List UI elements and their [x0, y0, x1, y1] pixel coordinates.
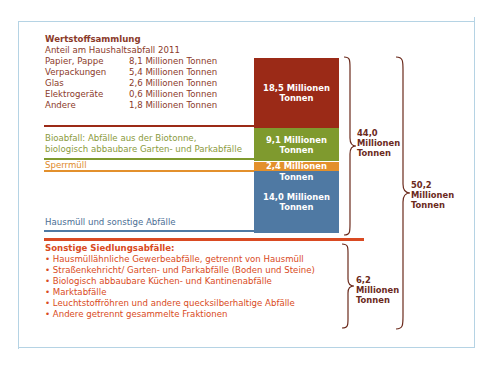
total-other-unit2: Tonnen — [356, 295, 390, 305]
segment-unit: Tonnen — [280, 93, 314, 103]
wertstoff-item-value: 2,6 Millionen Tonnen — [129, 78, 217, 89]
bar-segment-wertstoff: 18,5 Millionen Tonnen — [254, 58, 339, 128]
segment-value: 14,0 Millionen — [263, 192, 330, 202]
bar-segment-sperrmuell: 2,4 Millionen — [254, 162, 339, 171]
bar-segment-hausmuell: Tonnen 14,0 Millionen Tonnen — [254, 171, 339, 233]
sonstige-item: • Andere getrennt gesammelte Fraktionen — [45, 309, 228, 320]
sperrmuell-leader-line — [44, 170, 254, 172]
sonstige-item: • Leuchtstoffröhren und andere quecksilb… — [45, 298, 295, 309]
total-other-value: 6,2 — [356, 275, 371, 285]
total-household-unit2: Tonnen — [357, 148, 391, 158]
sonstige-title: Sonstige Siedlungsabfälle: — [45, 243, 175, 254]
bioabfall-label-line1: Bioabfall: Abfälle aus der Biotonne, — [45, 133, 196, 144]
wertstoff-item-label: Glas — [45, 78, 64, 89]
frame-border-right — [474, 17, 475, 348]
wertstoff-title: Wertstoffsammlung — [45, 34, 141, 45]
total-other-unit1: Millionen — [356, 285, 399, 295]
wertstoff-item-label: Verpackungen — [45, 67, 106, 78]
bar-segment-bioabfall: 9,1 Millionen Tonnen — [254, 128, 339, 161]
segment-unit: Tonnen — [280, 202, 314, 212]
hausmuell-leader-line — [44, 230, 254, 232]
frame-border-bottom — [18, 347, 475, 348]
brace-icon-total — [395, 56, 411, 330]
sonstige-item: • Straßenkehricht/ Garten- und Parkabfäl… — [45, 265, 315, 276]
segment-unit: Tonnen — [280, 172, 314, 182]
total-all-value: 50,2 — [411, 180, 432, 190]
sonstige-item: • Biologisch abbaubare Küchen- und Kanti… — [45, 276, 272, 287]
sonstige-separator-line — [44, 238, 364, 241]
brace-icon-household — [343, 56, 357, 236]
wertstoff-leader-line — [44, 125, 254, 127]
wertstoff-item-label: Papier, Pappe — [45, 56, 103, 67]
segment-value: 18,5 Millionen — [263, 83, 330, 93]
bioabfall-label-line2: biologisch abbaubare Garten- und Parkabf… — [45, 144, 242, 155]
total-all-unit2: Tonnen — [411, 200, 445, 210]
sonstige-item: • Hausmüllähnliche Gewerbeabfälle, getre… — [45, 254, 304, 265]
wertstoff-item-value: 5,4 Millionen Tonnen — [129, 67, 217, 78]
segment-unit: Tonnen — [280, 145, 314, 155]
segment-value: 2,4 Millionen — [266, 162, 327, 171]
wertstoff-item-value: 1,8 Millionen Tonnen — [129, 100, 217, 111]
total-all-unit1: Millionen — [411, 190, 454, 200]
wertstoff-item-value: 0,6 Millionen Tonnen — [129, 89, 217, 100]
brace-icon-other — [341, 243, 355, 329]
sonstige-item: • Marktabfälle — [45, 287, 106, 298]
segment-value: 9,1 Millionen — [266, 135, 327, 145]
wertstoff-item-label: Andere — [45, 100, 76, 111]
total-household-unit1: Millionen — [357, 138, 400, 148]
wertstoff-item-value: 8,1 Millionen Tonnen — [129, 56, 217, 67]
wertstoff-subtitle: Anteil am Haushaltsabfall 2011 — [45, 45, 180, 56]
wertstoff-item-label: Elektrogeräte — [45, 89, 103, 100]
total-household-value: 44,0 — [357, 128, 378, 138]
hausmuell-label: Hausmüll und sonstige Abfälle — [45, 217, 176, 228]
